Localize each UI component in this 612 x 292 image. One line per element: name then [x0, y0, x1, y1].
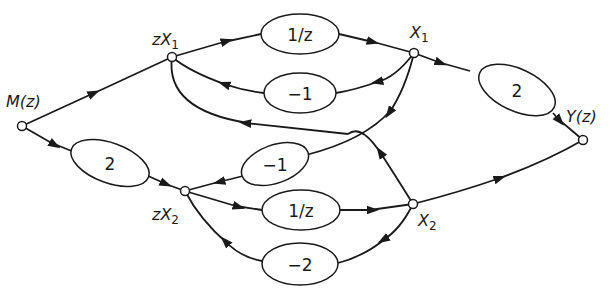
edge-fb1-to-zx1 [224, 84, 264, 93]
gain-label: 2 [105, 154, 116, 174]
label-zx2-sub: 2 [171, 213, 179, 227]
label-x1-sub: 1 [421, 31, 429, 45]
gain-label: 2 [512, 81, 523, 101]
node-y [579, 136, 588, 145]
edge-x2-to-zx1-upper [245, 123, 348, 134]
edge-delay1-to-x1-tail [370, 41, 414, 53]
gain-label: 1/z [288, 201, 314, 221]
edge-x1-to-fb1 [377, 53, 414, 82]
edge-crossfb-to-zx2-tail [185, 181, 222, 191]
edge-x2-to-zx1-mid [365, 135, 382, 155]
gain-label: −1 [262, 155, 287, 175]
gain-block-cross-feedback: −1 [236, 134, 315, 194]
gain-block-top-delay: 1/z [261, 14, 339, 54]
edge-x2-to-fb2 [383, 204, 413, 240]
edge-x2-to-zx1-hop [348, 131, 365, 135]
edge-x1-to-fb1-tail [336, 81, 380, 93]
edge-zx2-to-delay2-tail [236, 206, 262, 210]
label-zx2: zX2 [151, 205, 179, 227]
node-x2 [409, 200, 418, 209]
label-m: M(z) [6, 92, 41, 111]
gain-label: −1 [287, 84, 312, 104]
edge-crossfb-to-zx2 [219, 176, 243, 182]
node-x1 [410, 49, 419, 58]
edge-fb1-to-zx1-tail [172, 57, 227, 85]
label-x1: X1 [409, 23, 429, 45]
edge-x2-to-zx1-top [171, 57, 248, 123]
label-zx1-sub: 1 [171, 38, 179, 52]
node-m [18, 122, 27, 131]
label-x2: X2 [417, 211, 437, 233]
node-zx1 [168, 53, 177, 62]
gain-block-top-feedback: −1 [264, 73, 336, 113]
gain-block-input-x2: 2 [65, 130, 156, 196]
gain-block-bottom-delay: 1/z [262, 190, 340, 230]
edge-x1-to-gain2b-tail [438, 62, 470, 71]
gain-label: −2 [287, 255, 312, 275]
label-x2-sub: 2 [429, 219, 437, 233]
edge-delay2-to-x2-tail [370, 204, 413, 210]
label-zx2-main: zX [151, 205, 172, 224]
edge-x2-to-y [413, 178, 500, 204]
label-y: Y(z) [566, 107, 597, 126]
edge-zx1-to-delay1 [172, 41, 227, 57]
signal-flow-graph: 1/z −1 2 2 −1 1/z −2 M(z) zX1 X1 Y(z) zX… [0, 0, 612, 292]
edge-zx1-to-delay1-tail [224, 34, 261, 42]
gain-block-bottom-feedback: −2 [262, 243, 338, 285]
edge-x2-to-zx1-lower [380, 152, 413, 204]
edge-m-to-zx1-tail [90, 57, 172, 95]
gain-label: 1/z [287, 25, 313, 45]
edge-fb2-to-zx2 [225, 241, 262, 261]
node-zx2 [181, 187, 190, 196]
gain-block-output-x1: 2 [471, 54, 563, 127]
label-zx1: zX1 [151, 30, 179, 52]
label-zx1-main: zX [151, 30, 172, 49]
edge-x1-to-crossfb [389, 53, 414, 113]
edge-delay1-to-x1 [339, 34, 373, 42]
edge-fb2-to-zx2-tail [185, 191, 228, 244]
edge-x2-to-fb2-tail [338, 238, 386, 263]
edge-x2-to-y-tail [497, 140, 583, 179]
edge-m-to-gain2 [22, 126, 55, 145]
